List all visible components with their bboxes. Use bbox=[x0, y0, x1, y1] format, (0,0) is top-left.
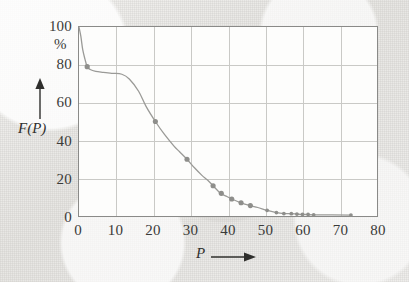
xtick-label-60: 60 bbox=[295, 222, 310, 239]
data-point-marker bbox=[265, 208, 269, 212]
x-axis-arrow-icon bbox=[211, 251, 257, 263]
data-point-marker bbox=[184, 157, 189, 162]
data-point-marker bbox=[306, 213, 310, 217]
figure-container: 100 80 60 40 20 0 % F(P) 0 10 20 30 40 5… bbox=[0, 0, 409, 282]
xtick-label-50: 50 bbox=[258, 222, 273, 239]
xtick-label-20: 20 bbox=[145, 222, 160, 239]
data-point-marker bbox=[282, 212, 286, 216]
data-point-marker bbox=[275, 211, 279, 215]
xtick-label-70: 70 bbox=[333, 222, 348, 239]
x-axis-title: P bbox=[196, 245, 205, 262]
ytick-label-100: 100 bbox=[30, 18, 72, 35]
data-point-marker bbox=[248, 203, 253, 208]
xtick-label-80: 80 bbox=[370, 222, 385, 239]
ytick-label-80: 80 bbox=[30, 56, 72, 73]
ytick-label-0: 0 bbox=[30, 209, 72, 226]
y-axis-title: F(P) bbox=[18, 120, 46, 137]
data-point-marker bbox=[301, 212, 305, 216]
data-curve bbox=[79, 27, 377, 216]
data-point-marker bbox=[219, 191, 224, 196]
data-point-marker bbox=[312, 213, 316, 217]
data-point-marker bbox=[349, 213, 353, 217]
y-axis-arrow-icon bbox=[32, 78, 48, 120]
xtick-label-0: 0 bbox=[74, 222, 82, 239]
plot-area bbox=[78, 26, 378, 217]
xtick-label-30: 30 bbox=[183, 222, 198, 239]
data-point-marker bbox=[153, 119, 158, 124]
xtick-label-40: 40 bbox=[220, 222, 235, 239]
data-point-marker bbox=[289, 212, 293, 216]
data-point-marker bbox=[229, 196, 234, 201]
xtick-label-10: 10 bbox=[108, 222, 123, 239]
data-point-marker bbox=[238, 200, 243, 205]
data-point-marker bbox=[85, 64, 90, 69]
data-point-marker bbox=[295, 212, 299, 216]
y-unit-label: % bbox=[54, 36, 67, 53]
ytick-label-20: 20 bbox=[30, 170, 72, 187]
data-point-marker bbox=[211, 183, 216, 188]
